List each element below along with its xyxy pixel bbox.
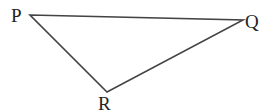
triangle-pqr [30,15,243,92]
vertex-label-p: P [11,5,22,26]
vertex-label-q: Q [245,11,259,32]
vertex-label-r: R [98,93,111,112]
triangle-diagram: P Q R [0,0,268,112]
